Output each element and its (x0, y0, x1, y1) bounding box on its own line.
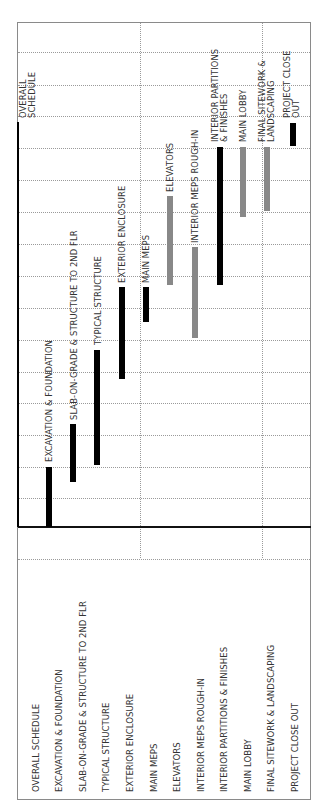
bar-label-elevators: ELEVATORS (166, 143, 175, 192)
row-label-typical-structure: TYPICAL STRUCTURE (101, 702, 111, 792)
column-gridline (140, 23, 141, 558)
bar-label-typical: TYPICAL STRUCTURE (94, 256, 103, 345)
row-label-slab: SLAB-ON-GRADE & STRUCTURE TO 2ND FLR (78, 601, 88, 792)
bar-main-meps (143, 287, 149, 322)
gridline (18, 467, 310, 468)
bar-final-sitework (264, 147, 270, 211)
bar-excavation-foundation (46, 467, 52, 527)
bar-main-lobby (240, 147, 246, 217)
bar-label-line: OUT (292, 50, 301, 118)
row-label-overall-schedule: OVERALL SCHEDULE (31, 704, 41, 792)
bar-overall-schedule (17, 122, 19, 527)
bar-label-partitions: INTERIOR PARTITIONS & FINISHES (211, 49, 229, 142)
row-label-interior-meps: INTERIOR MEPS ROUGH-IN (196, 678, 206, 792)
bar-label-line: SCHEDULE (28, 72, 37, 118)
gridline (18, 340, 310, 341)
bar-typical-structure (94, 350, 100, 465)
gridline (18, 435, 310, 436)
gridline (18, 498, 310, 499)
row-label-project-close-out: PROJECT CLOSE OUT (290, 703, 300, 792)
gridline (18, 308, 310, 309)
time-axis-baseline (18, 526, 311, 528)
gridline (18, 212, 310, 213)
gridline (18, 372, 310, 373)
bar-label-line: LANDSCAPING (267, 60, 276, 142)
bar-label-slab: SLAB-ON-GRADE & STRUCTURE TO 2ND FLR (70, 230, 79, 420)
bar-elevators (167, 196, 173, 285)
bar-label-main-meps: MAIN MEPS (142, 235, 151, 283)
bar-interior-meps (192, 247, 198, 338)
gridline (18, 244, 310, 245)
bar-exterior-enclosure (119, 287, 125, 379)
row-label-exterior-enclosure: EXTERIOR ENCLOSURE (125, 694, 135, 792)
gridline (18, 276, 310, 277)
bar-label-sitework: FINAL SITEWORK & LANDSCAPING (258, 60, 276, 142)
bar-label-overall: OVERALL SCHEDULE (19, 72, 37, 118)
bar-slab-on-grade (70, 424, 76, 482)
row-label-excavation: EXCAVATION & FOUNDATION (54, 669, 64, 792)
bar-label-line: & FINISHES (220, 49, 229, 142)
row-label-final-sitework: FINAL SITEWORK & LANDSCAPING (266, 645, 276, 792)
gridline (18, 52, 310, 53)
row-label-elevators: ELEVATORS (172, 742, 182, 792)
label-separator (18, 559, 310, 560)
bar-interior-partitions (217, 147, 223, 285)
row-label-interior-partitions: INTERIOR PARTITIONS & FINISHES (219, 647, 229, 792)
bar-label-exterior: EXTERIOR ENCLOSURE (118, 186, 127, 283)
bar-label-interior-meps: INTERIOR MEPS ROUGH-IN (191, 130, 200, 243)
bar-label-lobby: MAIN LOBBY (239, 90, 248, 142)
bar-label-excavation: EXCAVATION & FOUNDATION (45, 340, 54, 462)
row-label-main-meps: MAIN MEPS (149, 744, 159, 792)
gridline (18, 403, 310, 404)
bar-label-closeout: PROJECT CLOSE OUT (283, 50, 301, 118)
row-label-main-lobby: MAIN LOBBY (243, 739, 253, 792)
bar-project-close-out (290, 123, 296, 146)
